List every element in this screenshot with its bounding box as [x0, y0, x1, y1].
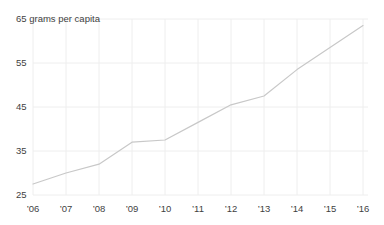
x-axis-tick-label: ’08: [93, 203, 106, 214]
chart-container: 2535455565 grams per capita’06’07’08’09’…: [0, 0, 384, 225]
x-axis-tick-label: ’13: [258, 203, 271, 214]
x-axis-tick-label: ’14: [291, 203, 304, 214]
x-axis-tick-label: ’12: [225, 203, 238, 214]
y-axis-tick-label: 25: [16, 189, 27, 200]
line-chart: 2535455565 grams per capita’06’07’08’09’…: [0, 0, 384, 225]
y-axis-tick-label: 35: [16, 145, 27, 156]
x-axis-tick-label: ’06: [27, 203, 40, 214]
x-axis-tick-label: ’15: [324, 203, 337, 214]
x-axis-tick-label: ’11: [192, 203, 204, 214]
chart-background: [0, 0, 384, 225]
x-axis-tick-label: ’09: [126, 203, 139, 214]
x-axis-tick-label: ’07: [60, 203, 73, 214]
y-axis-tick-label: 45: [16, 101, 27, 112]
y-axis-tick-label: 55: [16, 57, 27, 68]
y-axis-unit-label: 65 grams per capita: [16, 13, 101, 24]
x-axis-tick-label: ’10: [159, 203, 172, 214]
x-axis-tick-label: ’16: [357, 203, 370, 214]
